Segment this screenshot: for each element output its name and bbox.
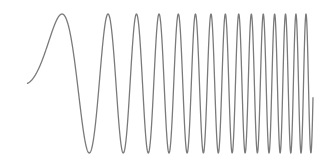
chirp-plot bbox=[0, 0, 330, 166]
chirp-line bbox=[27, 14, 313, 153]
